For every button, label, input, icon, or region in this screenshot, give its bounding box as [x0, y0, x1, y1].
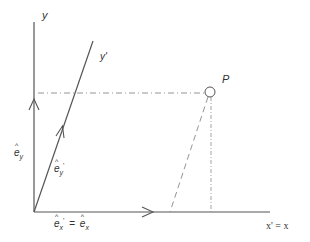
- e-y-subscript: y: [20, 153, 24, 160]
- e-y-base: e: [14, 148, 20, 158]
- e-x-subscript: x: [85, 224, 89, 231]
- y-prime-axis: [34, 41, 93, 212]
- e-y-prime-subscript: y: [60, 169, 64, 176]
- e-x-equality-label: ex' = ex: [54, 219, 89, 229]
- e-x-prime-mark: ': [63, 217, 64, 224]
- point-p-marker-icon: [205, 87, 215, 97]
- e-x-prime-subscript: x: [60, 224, 64, 231]
- e-y-prime-label: ey': [54, 164, 64, 174]
- oblique-projection-line: [170, 97, 208, 212]
- e-x-prime-base: e: [54, 219, 60, 229]
- x-axis-label: x' = x: [266, 221, 288, 231]
- e-y-label: ey: [14, 148, 23, 158]
- y-axis-label: y: [42, 10, 48, 21]
- point-p-label: P: [222, 74, 229, 85]
- coordinate-diagram: [0, 0, 310, 242]
- y-prime-axis-label: y': [100, 52, 107, 62]
- equals-sign: =: [69, 218, 75, 229]
- e-y-prime-base: e: [54, 164, 60, 174]
- e-y-prime-mark: ': [63, 162, 64, 169]
